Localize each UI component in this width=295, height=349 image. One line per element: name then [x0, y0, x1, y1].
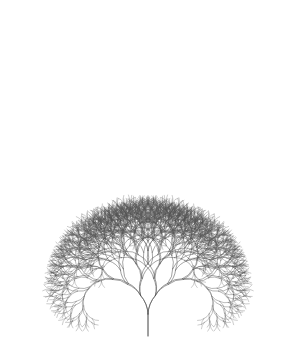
branch-segment	[70, 285, 79, 288]
branch-segment	[208, 275, 219, 276]
branch-segment	[173, 198, 179, 202]
branch-segment	[225, 262, 234, 263]
tree-drawing	[0, 0, 295, 349]
branch-segment	[87, 314, 92, 319]
branch-segment	[76, 325, 79, 331]
branch-segment	[181, 248, 192, 249]
branch-segment	[81, 268, 88, 276]
branch-segment	[102, 282, 105, 288]
branch-segment	[76, 277, 87, 279]
branch-segment	[78, 275, 89, 276]
branch-segment	[208, 268, 215, 276]
branch-group	[43, 195, 254, 336]
branch-segment	[214, 217, 219, 221]
branch-segment	[145, 266, 153, 279]
branch-segment	[224, 266, 228, 271]
branch-segment	[209, 306, 212, 314]
branch-segment	[160, 254, 170, 264]
branch-segment	[127, 284, 140, 295]
branch-segment	[142, 266, 150, 279]
branch-segment	[148, 296, 155, 315]
branch-segment	[76, 217, 81, 221]
branch-segment	[238, 249, 243, 254]
branch-segment	[240, 299, 247, 300]
branch-segment	[88, 212, 93, 217]
branch-segment	[118, 198, 124, 202]
branch-segment	[92, 271, 93, 277]
branch-segment	[99, 282, 102, 288]
branch-segment	[155, 284, 168, 295]
branch-segment	[105, 248, 116, 249]
branch-segment	[214, 321, 217, 327]
branch-segment	[68, 266, 72, 271]
branch-segment	[141, 296, 148, 315]
branch-segment	[141, 296, 148, 315]
branch-segment	[50, 299, 57, 300]
branch-segment	[210, 321, 214, 327]
branch-segment	[217, 325, 220, 331]
branch-segment	[192, 273, 194, 279]
branch-segment	[117, 199, 118, 206]
branch-segment	[195, 282, 198, 288]
branch-segment	[203, 212, 208, 217]
branch-segment	[84, 306, 87, 314]
branch-segment	[53, 302, 59, 306]
branch-segment	[222, 280, 225, 286]
branch-segment	[102, 273, 104, 279]
branch-segment	[219, 280, 222, 286]
branch-segment	[79, 321, 82, 327]
branch-segment	[127, 254, 137, 264]
branch-segment	[192, 282, 195, 288]
branch-segment	[228, 308, 230, 314]
branch-segment	[206, 268, 210, 273]
branch-segment	[75, 280, 78, 286]
branch-segment	[87, 268, 91, 273]
branch-segment	[83, 321, 87, 327]
branch-segment	[45, 283, 52, 284]
branch-segment	[148, 296, 155, 315]
branch-segment	[209, 277, 220, 279]
branch-segment	[202, 271, 203, 277]
branch-segment	[66, 308, 68, 314]
branch-segment	[237, 302, 243, 306]
branch-segment	[244, 283, 251, 284]
branch-segment	[178, 199, 179, 206]
branch-segment	[54, 249, 59, 254]
branch-segment	[217, 285, 226, 288]
branch-segment	[204, 314, 209, 319]
branch-segment	[63, 262, 72, 263]
branch-segment	[72, 280, 75, 286]
